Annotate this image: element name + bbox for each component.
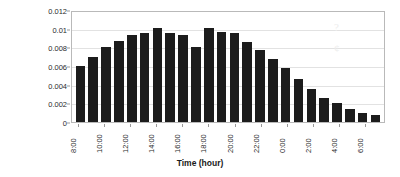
x-axis-tick-label: 12:00 [121, 134, 130, 153]
bar [76, 66, 86, 122]
x-axis-tick-mark [365, 124, 366, 127]
y-axis-tick-mark [67, 67, 70, 68]
x-axis-tick-label: 20:00 [226, 134, 235, 153]
bar-chart-figure: User Association Rate 00.0020.0040.0060.… [0, 0, 400, 177]
x-axis-tick-mark [208, 124, 209, 127]
x-axis-tick-label: 22:00 [252, 134, 261, 153]
bar [371, 115, 381, 122]
x-axis-tick-label: 0:00 [278, 138, 287, 153]
bar [88, 57, 98, 122]
x-axis-tick-label: 16:00 [173, 134, 182, 153]
x-axis-tick-label: 4:00 [330, 138, 339, 153]
bar [153, 28, 163, 122]
y-axis-tick-mark [67, 11, 70, 12]
bar [358, 113, 368, 122]
bar [114, 41, 124, 122]
bar [307, 89, 317, 122]
x-axis-tick-mark [313, 124, 314, 127]
bar-series [72, 12, 384, 122]
bar [178, 35, 188, 122]
y-axis-tick-mark [67, 123, 70, 124]
bar [127, 35, 137, 122]
bar [204, 28, 214, 122]
x-axis-tick-mark [130, 124, 131, 127]
bar [191, 47, 201, 122]
y-axis-tick-mark [67, 29, 70, 30]
x-axis-tick-label: 14:00 [147, 134, 156, 153]
bar [101, 47, 111, 122]
x-axis-tick-mark [156, 124, 157, 127]
y-axis-tick-label: 0.002 [48, 100, 67, 109]
bar [255, 50, 265, 122]
bar [332, 103, 342, 122]
x-axis-tick-mark [235, 124, 236, 127]
x-axis-tick-label: 18:00 [199, 134, 208, 153]
x-axis-tick-label: 8:00 [69, 138, 78, 153]
y-axis-tick-label: 0.004 [48, 81, 67, 90]
x-axis-tick-mark [261, 124, 262, 127]
bar [140, 33, 150, 122]
y-axis-tick-mark [67, 104, 70, 105]
bar [345, 109, 355, 122]
plot-area: ?¢ [71, 11, 385, 123]
bar [294, 79, 304, 122]
bar [217, 32, 227, 122]
y-axis-tick-label: 0.008 [48, 44, 67, 53]
y-axis-tick-mark [67, 85, 70, 86]
x-axis-tick-mark [182, 124, 183, 127]
x-axis-tick-labels: 8:0010:0012:0014:0016:0018:0020:0022:000… [71, 124, 385, 156]
bar [281, 68, 291, 122]
y-axis-tick-label: 0.006 [48, 63, 67, 72]
x-axis-title: Time (hour) [0, 158, 400, 168]
x-axis-tick-label: 2:00 [304, 138, 313, 153]
bar [319, 98, 329, 122]
bar [268, 59, 278, 122]
bar [230, 33, 240, 122]
y-axis-tick-label: 0.01 [52, 25, 67, 34]
x-axis-tick-label: 6:00 [356, 138, 365, 153]
x-axis-tick-mark [78, 124, 79, 127]
bar [242, 42, 252, 122]
x-axis-tick-label: 10:00 [95, 134, 104, 153]
x-axis-tick-mark [287, 124, 288, 127]
bar [165, 33, 175, 122]
x-axis-tick-mark [104, 124, 105, 127]
y-axis-tick-mark [67, 48, 70, 49]
x-axis-tick-mark [339, 124, 340, 127]
y-axis-tick-labels: 00.0020.0040.0060.0080.010.012 [36, 11, 70, 123]
y-axis-tick-label: 0.012 [48, 7, 67, 16]
